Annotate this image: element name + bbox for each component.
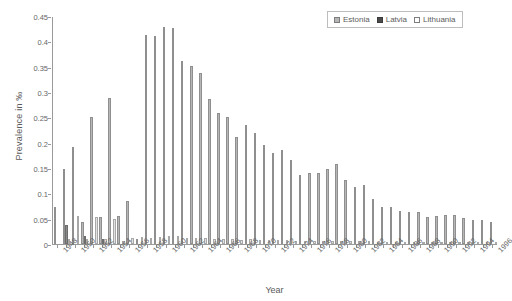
- bar-estonia-1989: [426, 217, 428, 244]
- x-tick-label: 1984: [387, 248, 393, 254]
- x-tick-label: 1962: [188, 248, 194, 254]
- x-tick-label: 1950: [79, 248, 85, 254]
- x-tick-label: 1988: [424, 248, 430, 254]
- legend-entry-lithuania: Lithuania: [414, 15, 455, 24]
- bar-estonia-1950: [72, 147, 74, 244]
- x-tick-label: 1990: [442, 248, 448, 254]
- bar-estonia-1982: [363, 185, 365, 244]
- y-tick-mark: [48, 245, 51, 246]
- x-tick-label: 1978: [333, 248, 339, 254]
- bar-estonia-1966: [217, 113, 219, 244]
- x-tick-label: 1958: [151, 248, 157, 254]
- x-tick-label: 1960: [170, 248, 176, 254]
- x-tick-label: 1982: [369, 248, 375, 254]
- bar-estonia-1952: [90, 117, 92, 244]
- x-tick-label: 1968: [242, 248, 248, 254]
- x-tick-label: 1986: [406, 248, 412, 254]
- bar-estonia-1958: [145, 35, 147, 244]
- bar-estonia-1979: [335, 164, 337, 244]
- x-tick-label: 1974: [297, 248, 303, 254]
- x-tick-label: 1948: [61, 248, 67, 254]
- legend-swatch-latvia-icon: [377, 17, 383, 23]
- x-tick-label: 1976: [315, 248, 321, 254]
- x-tick-label: 1956: [133, 248, 139, 254]
- x-tick-label: 1954: [115, 248, 121, 254]
- y-tick-label: 0.35: [20, 63, 48, 72]
- y-tick-label: 0.45: [20, 13, 48, 22]
- bar-estonia-1967: [226, 117, 228, 244]
- y-tick-mark: [48, 68, 51, 69]
- y-tick-label: 0.4: [20, 38, 48, 47]
- bar-estonia-1974: [290, 160, 292, 244]
- y-tick-mark: [48, 17, 51, 18]
- bar-estonia-1954: [108, 98, 110, 244]
- y-tick-mark: [48, 220, 51, 221]
- legend-swatch-estonia-icon: [334, 17, 340, 23]
- bar-estonia-1976: [308, 173, 310, 244]
- bar-estonia-1969: [245, 125, 247, 244]
- bar-estonia-1980: [344, 180, 346, 244]
- bar-estonia-1948: [54, 207, 56, 244]
- bar-estonia-1961: [172, 28, 174, 244]
- x-tick-label: 1996: [496, 248, 502, 254]
- bar-estonia-1970: [254, 133, 256, 244]
- y-tick-mark: [48, 118, 51, 119]
- bar-estonia-1985: [390, 207, 392, 244]
- y-axis-tick-labels: 00.050.10.150.20.250.30.350.40.45: [18, 0, 48, 301]
- bars-container: [53, 17, 497, 244]
- y-tick-label: 0: [20, 241, 48, 250]
- y-tick-mark: [48, 144, 51, 145]
- y-tick-mark: [48, 93, 51, 94]
- bar-estonia-1963: [190, 66, 192, 244]
- bar-estonia-1987: [408, 212, 410, 244]
- legend-entry-estonia: Estonia: [334, 15, 370, 24]
- legend-label: Latvia: [386, 15, 407, 24]
- y-tick-label: 0.15: [20, 165, 48, 174]
- bar-estonia-1968: [235, 137, 237, 244]
- bar-estonia-1964: [199, 73, 201, 244]
- legend-swatch-lithuania-icon: [414, 17, 420, 23]
- plot-area: [52, 17, 497, 245]
- bar-estonia-1972: [272, 153, 274, 244]
- y-tick-label: 0.2: [20, 139, 48, 148]
- x-tick-label: 1994: [478, 248, 484, 254]
- bar-estonia-1971: [263, 145, 265, 244]
- bar-estonia-1993: [462, 218, 464, 244]
- chart-legend: EstoniaLatviaLithuania: [327, 11, 463, 28]
- y-tick-label: 0.05: [20, 215, 48, 224]
- y-tick-label: 0.1: [20, 190, 48, 199]
- bar-estonia-1960: [163, 27, 165, 244]
- x-axis-title: Year: [52, 285, 497, 295]
- x-tick-label: 1966: [224, 248, 230, 254]
- y-tick-label: 0.3: [20, 89, 48, 98]
- x-axis-tick-labels: 1948195019521954195619581960196219641966…: [52, 248, 497, 288]
- y-tick-label: 0.25: [20, 114, 48, 123]
- bar-estonia-1975: [299, 175, 301, 244]
- bar-estonia-1962: [181, 61, 183, 244]
- prevalence-bar-chart: Prevalence in ‰ 00.050.10.150.20.250.30.…: [0, 0, 512, 301]
- legend-label: Estonia: [343, 15, 370, 24]
- x-tick-label: 1964: [206, 248, 212, 254]
- bar-estonia-1965: [208, 99, 210, 244]
- legend-label: Lithuania: [423, 15, 455, 24]
- bar-estonia-1955: [117, 216, 119, 244]
- bar-estonia-1959: [154, 36, 156, 244]
- legend-entry-latvia: Latvia: [377, 15, 407, 24]
- bar-estonia-1983: [372, 199, 374, 244]
- bar-estonia-1978: [326, 169, 328, 244]
- x-tick-label: 1992: [460, 248, 466, 254]
- x-tick-label: 1980: [351, 248, 357, 254]
- bar-estonia-1991: [444, 215, 446, 244]
- x-tick-label: 1970: [260, 248, 266, 254]
- y-tick-mark: [48, 194, 51, 195]
- y-tick-mark: [48, 169, 51, 170]
- bar-estonia-1977: [317, 173, 319, 244]
- y-tick-mark: [48, 42, 51, 43]
- bar-estonia-1981: [354, 187, 356, 244]
- x-tick-label: 1952: [97, 248, 103, 254]
- bar-estonia-1995: [481, 220, 483, 244]
- bar-estonia-1973: [281, 150, 283, 244]
- x-tick-label: 1972: [279, 248, 285, 254]
